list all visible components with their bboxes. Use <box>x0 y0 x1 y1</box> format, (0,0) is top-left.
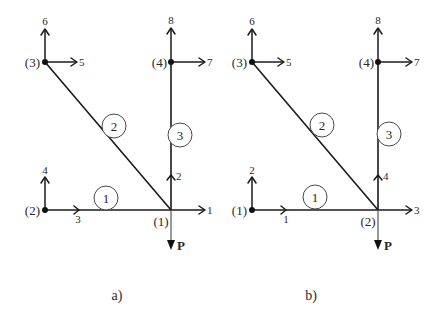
element-3-label: 3 <box>177 128 184 143</box>
dof-7-label: 7 <box>207 56 213 68</box>
node-3-label: (3) <box>232 55 247 70</box>
dof-2-label: 2 <box>176 170 182 182</box>
panel-b: 2 3 1 (3) (4) (1) (2) 6 5 8 7 2 1 4 3 P … <box>232 14 420 304</box>
dof-1-label: 1 <box>207 204 213 216</box>
dof-8-label: 8 <box>168 14 174 26</box>
node-2-dot <box>42 207 48 213</box>
node-4-dot <box>375 59 381 65</box>
element-3-label: 3 <box>386 127 393 142</box>
load-arrowhead-icon <box>374 240 382 250</box>
dof-1-label: 1 <box>283 213 289 225</box>
node-4-label: (4) <box>152 55 167 70</box>
element-2-label: 2 <box>319 118 326 133</box>
dof-3-label: 3 <box>75 213 81 225</box>
node-1-dot <box>249 207 255 213</box>
node-2-label: (2) <box>25 203 40 218</box>
caption-b: b) <box>305 288 317 304</box>
dof-5-label: 5 <box>286 56 292 68</box>
node-1-label: (1) <box>232 203 247 218</box>
dof-8-label: 8 <box>375 14 381 26</box>
element-1-label: 1 <box>103 191 110 206</box>
dof-3-label: 3 <box>414 204 420 216</box>
dof-4-label: 4 <box>42 164 48 176</box>
node-4-label: (4) <box>359 55 374 70</box>
dof-7-label: 7 <box>414 56 420 68</box>
dof-2-label: 2 <box>249 164 255 176</box>
load-label: P <box>384 238 392 253</box>
element-2-label: 2 <box>111 119 118 134</box>
node-4-dot <box>168 59 174 65</box>
dof-6-label: 6 <box>42 15 48 27</box>
node-1-label: (1) <box>153 214 168 229</box>
panel-a: 2 3 1 (3) (4) (2) (1) 6 5 8 7 4 3 2 1 P … <box>25 14 213 304</box>
load-label: P <box>177 238 185 253</box>
dof-6-label: 6 <box>249 15 255 27</box>
truss-diagram: 2 3 1 (3) (4) (2) (1) 6 5 8 7 4 3 2 1 P … <box>0 0 440 321</box>
load-arrowhead-icon <box>167 240 175 250</box>
dof-5-label: 5 <box>79 56 85 68</box>
node-3-dot <box>42 59 48 65</box>
node-3-label: (3) <box>25 55 40 70</box>
dof-4-label: 4 <box>383 170 389 182</box>
node-2-label: (2) <box>360 214 375 229</box>
node-3-dot <box>249 59 255 65</box>
caption-a: a) <box>112 288 123 304</box>
element-1-label: 1 <box>312 190 319 205</box>
